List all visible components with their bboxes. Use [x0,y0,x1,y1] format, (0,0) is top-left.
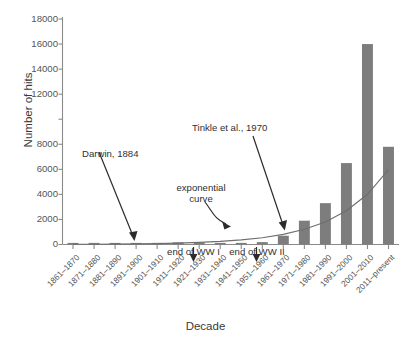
exponential-arrow-head [222,222,231,230]
annotation-tinkle: Tinkle et al., 1970 [192,122,267,133]
bar [215,243,226,245]
bar [257,242,268,244]
bar [236,243,247,245]
tinkle-arrow-head [279,220,287,231]
annotation-darwin: Darwin, 1884 [82,148,139,159]
annotation-ww2: end of WW II [212,246,302,257]
bar [299,221,310,245]
darwin-arrow-head [129,231,138,241]
bar [362,44,373,244]
exponential-arrow-curve [205,202,226,224]
bar-series [68,44,394,244]
annotation-exponential-line2: curve [189,193,212,204]
annotation-exponential: exponential curve [158,182,244,204]
annotation-exponential-line1: exponential [176,182,225,193]
bar [341,163,352,244]
bar [278,236,289,245]
y-tick-marks [59,19,63,245]
bar [383,147,394,245]
x-axis-title: Decade [0,320,411,332]
darwin-arrow-line [99,152,133,236]
chart-figure: Number of hits 18000 16000 14000 12000 8… [0,0,411,347]
tinkle-arrow-line [253,136,283,225]
